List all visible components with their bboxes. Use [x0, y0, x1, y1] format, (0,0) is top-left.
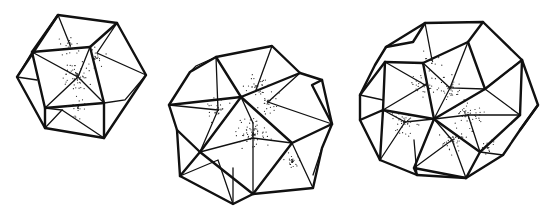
polyhedron-1 — [17, 15, 146, 138]
illustration-canvas — [0, 0, 555, 221]
stipple-shading — [392, 51, 495, 156]
polyhedron-3 — [360, 22, 538, 178]
polyhedron-2 — [169, 46, 332, 204]
stipple-shading — [207, 74, 300, 168]
